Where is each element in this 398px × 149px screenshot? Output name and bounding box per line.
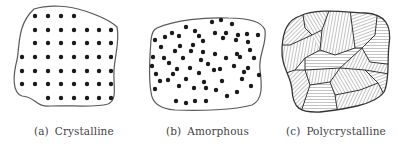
random-atom-dot	[188, 66, 192, 70]
random-atom-dot	[246, 66, 250, 70]
random-atom-dot	[167, 61, 171, 65]
random-atom-dot	[230, 22, 234, 26]
random-atom-dot	[235, 90, 239, 94]
lattice-atom-dot	[46, 96, 50, 100]
random-atom-dot	[245, 32, 249, 36]
random-atom-dot	[184, 101, 188, 105]
random-atom-dot	[178, 44, 182, 48]
random-atom-dot	[175, 67, 179, 71]
lattice-atom-dot	[97, 55, 101, 59]
lattice-atom-dot	[59, 69, 63, 73]
lattice-atom-dot	[46, 14, 50, 18]
random-atom-dot	[204, 99, 208, 103]
lattice-atom-dot	[72, 14, 76, 18]
random-atom-dot	[256, 33, 260, 37]
lattice-atom-dot	[85, 55, 89, 59]
lattice-atom-dot	[33, 41, 37, 45]
random-atom-dot	[242, 70, 246, 74]
lattice-atom-dot	[72, 55, 76, 59]
lattice-atom-dot	[109, 28, 113, 32]
caption-crystalline: (a)Crystalline	[34, 125, 114, 137]
random-atom-dot	[197, 34, 201, 38]
random-atom-dot	[219, 18, 223, 22]
random-atom-dot	[246, 40, 250, 44]
crystal-lattice-dots	[20, 14, 113, 100]
lattice-atom-dot	[109, 82, 113, 86]
random-atom-dot	[213, 31, 217, 35]
lattice-atom-dot	[109, 96, 113, 100]
random-atom-dot	[159, 45, 163, 49]
lattice-atom-dot	[33, 28, 37, 32]
lattice-atom-dot	[85, 82, 89, 86]
random-atom-dot	[218, 67, 222, 71]
lattice-atom-dot	[20, 55, 24, 59]
lattice-atom-dot	[46, 82, 50, 86]
lattice-atom-dot	[33, 14, 37, 18]
caption-tag: (a)	[34, 125, 49, 137]
caption-label: Amorphous	[187, 125, 249, 137]
random-atom-dot	[224, 31, 228, 35]
lattice-atom-dot	[46, 41, 50, 45]
random-atom-dot	[224, 56, 228, 60]
lattice-atom-dot	[85, 96, 89, 100]
crystalline-panel	[14, 6, 118, 106]
random-atom-dot	[248, 48, 252, 52]
random-atom-dot	[150, 64, 154, 68]
random-atom-dot	[191, 43, 195, 47]
lattice-atom-dot	[85, 28, 89, 32]
random-atom-dot	[199, 58, 203, 62]
lattice-atom-dot	[85, 41, 89, 45]
lattice-atom-dot	[33, 82, 37, 86]
random-atom-dot	[214, 88, 218, 92]
random-atom-dot	[225, 94, 229, 98]
random-atom-dot	[181, 56, 185, 60]
random-atom-dot	[177, 84, 181, 88]
random-atom-dot	[213, 52, 217, 56]
lattice-atom-dot	[33, 55, 37, 59]
random-atom-dot	[153, 38, 157, 42]
lattice-atom-dot	[59, 41, 63, 45]
random-atom-dot	[238, 55, 242, 59]
hatched-grains	[280, 8, 395, 115]
random-atom-dot	[236, 33, 240, 37]
caption-amorphous: (b)Amorphous	[166, 125, 249, 137]
random-atom-dot	[170, 31, 174, 35]
lattice-atom-dot	[72, 82, 76, 86]
lattice-atom-dot	[59, 82, 63, 86]
random-atom-dot	[184, 25, 188, 29]
lattice-atom-dot	[109, 55, 113, 59]
random-atom-dot	[201, 50, 205, 54]
random-atom-dot	[221, 36, 225, 40]
lattice-atom-dot	[46, 55, 50, 59]
lattice-atom-dot	[97, 69, 101, 73]
random-atom-dot	[249, 84, 253, 88]
lattice-atom-dot	[97, 82, 101, 86]
random-atom-dot	[257, 73, 261, 77]
random-atom-dot	[192, 86, 196, 90]
random-atom-dot	[252, 56, 256, 60]
random-atom-dot	[212, 68, 216, 72]
random-atom-dot	[220, 79, 224, 83]
random-atom-dot	[163, 35, 167, 39]
lattice-atom-dot	[46, 69, 50, 73]
random-atom-dot	[173, 49, 177, 53]
polycrystalline-panel	[280, 8, 395, 115]
lattice-atom-dot	[72, 41, 76, 45]
random-atom-dot	[158, 79, 162, 83]
caption-label: Polycrystalline	[306, 125, 386, 137]
caption-tag: (b)	[166, 125, 181, 137]
random-atom-dot	[151, 55, 155, 59]
random-atom-dot	[234, 38, 238, 42]
random-atom-dot	[204, 86, 208, 90]
lattice-atom-dot	[109, 41, 113, 45]
random-atom-dot	[232, 64, 236, 68]
lattice-atom-dot	[72, 28, 76, 32]
random-atom-dot	[189, 49, 193, 53]
random-atom-dot	[162, 56, 166, 60]
caption-tag: (c)	[286, 125, 300, 137]
lattice-atom-dot	[59, 14, 63, 18]
materials-structure-figure: (a)Crystalline (b)Amorphous (c)Polycryst…	[0, 0, 398, 149]
random-atom-dot	[206, 62, 210, 66]
random-atom-dot	[166, 78, 170, 82]
random-atom-dots	[150, 18, 261, 105]
